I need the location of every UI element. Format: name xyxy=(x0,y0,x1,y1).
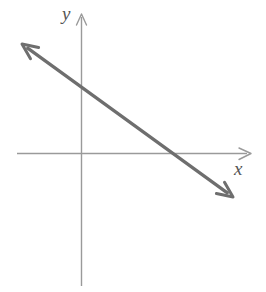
plotted-line xyxy=(28,48,228,193)
x-axis-label: x xyxy=(234,159,242,178)
y-axis-label: y xyxy=(62,4,70,23)
coordinate-plane-figure: y x xyxy=(0,0,266,292)
figure-canvas xyxy=(0,0,266,292)
